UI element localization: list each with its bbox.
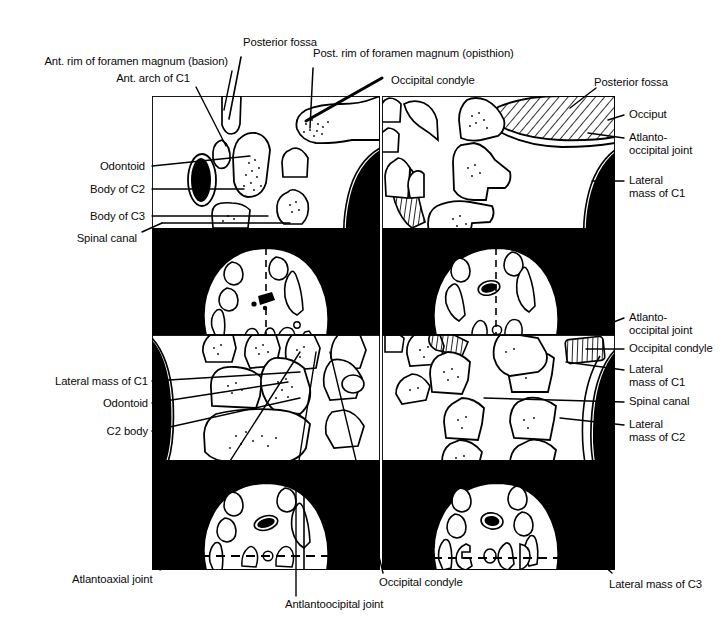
leader-occipital-condyle-top [306, 78, 382, 121]
label-antlantoocipital-joint: Antlantoocipital joint [285, 598, 383, 611]
leader-atlanto-occipital-right-2 [588, 318, 624, 332]
label-ant-rim-foramen-magnum: Ant. rim of foramen magnum (basion) [20, 55, 228, 68]
leader-posterior-fossa-right [570, 88, 596, 108]
label-occiput: Occiput [629, 108, 667, 121]
leader-posterior-fossa-top [229, 57, 241, 119]
leader-occipital-condyle-bottom [330, 352, 383, 573]
label-spinal-canal-right: Spinal canal [629, 395, 689, 408]
leader-ant-arch-c1 [196, 87, 226, 146]
leader-c2-body [152, 398, 300, 431]
leader-atlanto-occipital-right-1 [588, 133, 624, 138]
label-line-1: Atlanto- [629, 311, 667, 323]
label-line-1: Atlanto- [629, 131, 667, 143]
label-occipital-condyle-right: Occipital condyle [629, 342, 713, 355]
label-post-rim-foramen-magnum: Post. rim of foramen magnum (opisthion) [313, 47, 514, 60]
label-line-2: mass of C1 [629, 376, 685, 388]
label-odontoid-left-2: Odontoid [10, 397, 148, 410]
label-atlantoaxial-joint: Atlantoaxial joint [72, 573, 152, 586]
label-atlanto-occipital-joint-right-1: Atlanto-occipital joint [629, 131, 692, 157]
label-odontoid-left-1: Odontoid [10, 160, 145, 173]
label-line-1: Lateral [629, 174, 663, 186]
leader-lateral-mass-c1-right-2 [566, 362, 624, 370]
label-c2-body: C2 body [10, 425, 148, 438]
leader-ant-rim-foramen-magnum [224, 71, 232, 110]
label-line-1: Lateral [629, 363, 663, 375]
label-occipital-condyle-bottom: Occipital condyle [379, 576, 463, 589]
label-atlanto-occipital-joint-right-2: Atlanto-occipital joint [629, 311, 692, 337]
label-lateral-mass-c3: Lateral mass of C3 [609, 578, 702, 591]
leader-lateral-mass-c3 [573, 538, 612, 573]
label-line-1: Lateral [629, 418, 663, 430]
label-lateral-mass-c1-left: Lateral mass of C1 [10, 375, 148, 388]
label-body-of-c3: Body of C3 [10, 210, 145, 223]
label-lateral-mass-c1-right-2: Lateralmass of C1 [629, 363, 685, 389]
label-line-2: occipital joint [629, 144, 692, 156]
leader-odontoid-left-1 [152, 156, 250, 166]
leader-lines [0, 0, 722, 639]
label-line-2: mass of C1 [629, 187, 685, 199]
figure-root: Posterior fossa Ant. rim of foramen magn… [0, 0, 722, 639]
leader-atlantoaxial-joint [160, 352, 300, 570]
leader-occiput [608, 115, 624, 120]
label-lateral-mass-c1-right-1: Lateralmass of C1 [629, 174, 685, 200]
label-line-2: occipital joint [629, 324, 692, 336]
label-occipital-condyle-top: Occipital condyle [391, 74, 475, 87]
leader-spinal-canal-left [142, 223, 162, 232]
label-lateral-mass-c2: Lateralmass of C2 [629, 418, 685, 444]
label-spinal-canal-left: Spinal canal [10, 232, 137, 245]
label-ant-arch-c1: Ant. arch of C1 [40, 72, 190, 85]
label-body-of-c2: Body of C2 [10, 183, 145, 196]
label-posterior-fossa-right: Posterior fossa [594, 76, 668, 89]
label-line-2: mass of C2 [629, 431, 685, 443]
leader-odontoid-left-2 [152, 382, 288, 403]
leader-spinal-canal-right [484, 398, 624, 402]
leader-lateral-mass-c2 [560, 418, 624, 425]
leader-lateral-mass-c1-left [152, 372, 300, 381]
